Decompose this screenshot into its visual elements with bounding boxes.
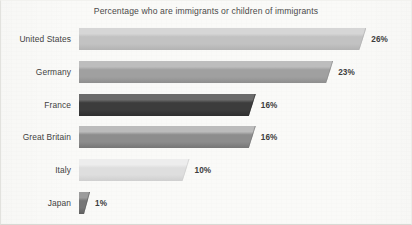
bar-japan: [79, 192, 90, 214]
bar-germany: [79, 61, 333, 83]
plot-area: United States26%Germany23%France16%Great…: [1, 23, 412, 219]
bar-row: Japan1%: [1, 186, 412, 219]
bar-category-label: Great Britain: [1, 132, 71, 142]
bar-united-states: [79, 28, 366, 50]
bar-value-label: 26%: [371, 35, 388, 44]
bar-value-label: 16%: [261, 133, 278, 142]
bar-value-label: 23%: [338, 67, 355, 76]
bar-category-label: United States: [1, 34, 71, 44]
bar-france: [79, 94, 256, 116]
bar-great-britain: [79, 126, 256, 148]
bar-row: Italy10%: [1, 154, 412, 187]
bar-chart-figure: Percentage who are immigrants or childre…: [0, 0, 412, 225]
bar-row: Great Britain16%: [1, 121, 412, 154]
bar-row: France16%: [1, 88, 412, 121]
bar-category-label: Japan: [1, 198, 71, 208]
bar-value-label: 16%: [261, 100, 278, 109]
bar-category-label: Germany: [1, 67, 71, 77]
bar-row: Germany23%: [1, 56, 412, 89]
bar-category-label: Italy: [1, 165, 71, 175]
bar-value-label: 1%: [95, 198, 107, 207]
chart-title: Percentage who are immigrants or childre…: [1, 6, 411, 16]
bar-italy: [79, 159, 190, 181]
bar-category-label: France: [1, 100, 71, 110]
bar-row: United States26%: [1, 23, 412, 56]
bar-value-label: 10%: [195, 165, 212, 174]
